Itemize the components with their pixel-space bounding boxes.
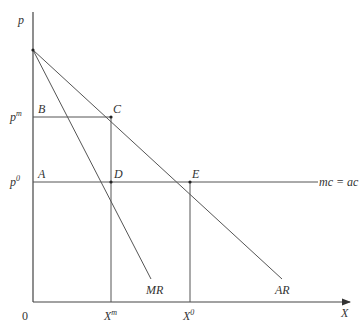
point-d-label: D	[113, 167, 123, 181]
point-e-label: E	[191, 167, 200, 181]
xm-label: Xm	[103, 308, 117, 323]
intercept-dot	[31, 48, 34, 51]
y-axis-label: p	[17, 13, 24, 27]
mc-ac-label: mc = ac	[319, 175, 359, 189]
ar-label: AR	[274, 283, 290, 297]
x-axis-label: X	[340, 306, 349, 320]
pm-label: pm	[9, 109, 22, 124]
mr-curve	[33, 50, 151, 279]
ar-curve	[33, 50, 282, 279]
point-d-dot	[109, 180, 112, 183]
monopoly-diagram: p X 0 pm p0 Xm X0 B C A D E MR AR mc = a…	[0, 0, 364, 331]
origin-label: 0	[22, 309, 28, 323]
mr-label: MR	[145, 283, 164, 297]
x0-label: X0	[182, 308, 194, 323]
p0-label: p0	[9, 174, 20, 189]
point-c-label: C	[113, 102, 122, 116]
point-b-label: B	[38, 102, 46, 116]
diagram-canvas: p X 0 pm p0 Xm X0 B C A D E MR AR mc = a…	[0, 0, 364, 331]
point-a-label: A	[37, 167, 46, 181]
